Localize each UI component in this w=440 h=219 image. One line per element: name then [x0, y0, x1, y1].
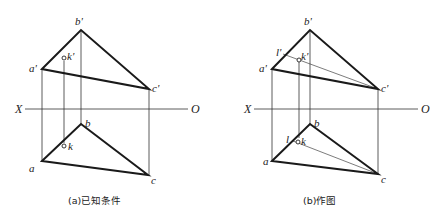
- label-b: b: [314, 117, 320, 129]
- label-b-prime: b': [75, 15, 84, 27]
- triangle-top-view: [272, 124, 378, 174]
- label-k: k: [68, 140, 74, 152]
- caption-a: (a)已知条件: [68, 195, 121, 206]
- label-k-prime: k': [301, 50, 309, 62]
- panel-b: X O b' a' c' k' l' b a c k l (b)作图: [243, 15, 430, 206]
- triangle-front-view: [42, 30, 149, 89]
- label-k: k: [301, 135, 307, 147]
- label-a-prime: a': [29, 62, 38, 74]
- label-c: c: [151, 174, 156, 186]
- label-c-prime: c': [381, 82, 389, 94]
- axis-label-o: O: [191, 102, 200, 116]
- triangle-front-view: [272, 30, 378, 89]
- point-k: [296, 140, 300, 144]
- label-c-prime: c': [152, 82, 160, 94]
- caption-b: (b)作图: [303, 195, 336, 206]
- label-l-prime: l': [276, 46, 282, 58]
- projection-diagram: X O b' a' c' k' b a c k (a)已知条件 X O: [0, 0, 440, 219]
- axis-label-x: X: [14, 102, 23, 116]
- panel-a: X O b' a' c' k' b a c k (a)已知条件: [14, 15, 200, 206]
- triangle-top-view: [42, 124, 148, 175]
- label-a-prime: a': [259, 62, 268, 74]
- label-l: l: [286, 133, 289, 145]
- label-b-prime: b': [304, 15, 313, 27]
- label-b: b: [85, 117, 91, 129]
- label-a: a: [29, 162, 35, 174]
- label-a: a: [263, 155, 269, 167]
- point-k: [62, 144, 66, 148]
- point-k-prime: [62, 56, 66, 60]
- axis-label-o: O: [421, 102, 430, 116]
- label-c: c: [381, 173, 386, 185]
- axis-label-x: X: [243, 102, 252, 116]
- label-k-prime: k': [67, 50, 75, 62]
